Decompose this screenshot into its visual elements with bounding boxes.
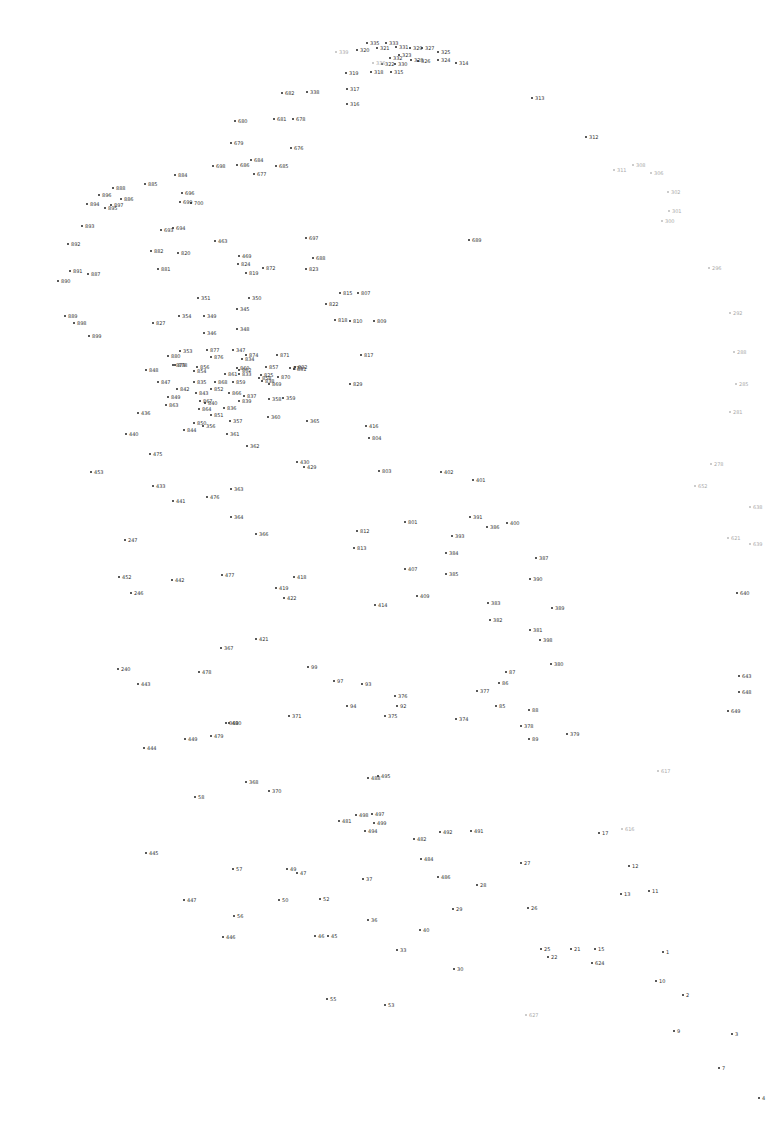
dot-number-label: 870 bbox=[281, 374, 291, 380]
dot-number-label: 827 bbox=[156, 320, 166, 326]
numbered-dot: 652 bbox=[694, 483, 708, 489]
dot-number-label: 292 bbox=[733, 310, 743, 316]
numbered-dot: 285 bbox=[735, 381, 749, 387]
dot-marker-icon bbox=[535, 557, 537, 559]
numbered-dot: 53 bbox=[384, 1002, 394, 1008]
dot-marker-icon bbox=[648, 890, 650, 892]
dot-marker-icon bbox=[69, 270, 71, 272]
dot-number-label: 356 bbox=[206, 423, 216, 429]
dot-marker-icon bbox=[528, 738, 530, 740]
dot-number-label: 306 bbox=[654, 170, 664, 176]
dot-marker-icon bbox=[152, 485, 154, 487]
numbered-dot: 484 bbox=[420, 856, 434, 862]
dot-number-label: 481 bbox=[342, 818, 352, 824]
dot-number-label: 881 bbox=[161, 266, 171, 272]
dot-marker-icon bbox=[531, 97, 533, 99]
numbered-dot: 327 bbox=[421, 45, 435, 51]
numbered-dot: 379 bbox=[566, 731, 580, 737]
numbered-dot: 680 bbox=[234, 118, 248, 124]
dot-number-label: 867 bbox=[203, 398, 213, 404]
numbered-dot: 430 bbox=[296, 459, 310, 465]
dot-number-label: 330 bbox=[398, 61, 408, 67]
numbered-dot: 698 bbox=[212, 163, 226, 169]
numbered-dot: 890 bbox=[57, 278, 71, 284]
dot-marker-icon bbox=[385, 42, 387, 44]
dot-number-label: 348 bbox=[240, 326, 250, 332]
dot-marker-icon bbox=[520, 725, 522, 727]
dot-marker-icon bbox=[177, 252, 179, 254]
dot-number-label: 391 bbox=[473, 514, 483, 520]
numbered-dot: 365 bbox=[306, 418, 320, 424]
numbered-dot: 872 bbox=[262, 265, 276, 271]
numbered-dot: 22 bbox=[547, 954, 557, 960]
numbered-dot: 308 bbox=[632, 162, 646, 168]
dot-marker-icon bbox=[735, 383, 737, 385]
dot-marker-icon bbox=[551, 607, 553, 609]
numbered-dot: 679 bbox=[230, 140, 244, 146]
dot-marker-icon bbox=[365, 425, 367, 427]
dot-marker-icon bbox=[174, 174, 176, 176]
dot-marker-icon bbox=[420, 858, 422, 860]
dot-marker-icon bbox=[437, 59, 439, 61]
dot-marker-icon bbox=[377, 775, 379, 777]
dot-marker-icon bbox=[366, 42, 368, 44]
dot-marker-icon bbox=[203, 315, 205, 317]
dot-marker-icon bbox=[238, 400, 240, 402]
numbered-dot: 480 bbox=[228, 720, 242, 726]
dot-number-label: 89 bbox=[532, 736, 538, 742]
dot-marker-icon bbox=[268, 790, 270, 792]
numbered-dot: 616 bbox=[621, 826, 635, 832]
dot-number-label: 13 bbox=[624, 891, 630, 897]
dot-number-label: 445 bbox=[149, 850, 159, 856]
dot-number-label: 9 bbox=[677, 1028, 680, 1034]
dot-number-label: 836 bbox=[227, 405, 237, 411]
dot-marker-icon bbox=[296, 872, 298, 874]
dot-marker-icon bbox=[64, 315, 66, 317]
numbered-dot: 810 bbox=[349, 318, 363, 324]
dot-marker-icon bbox=[489, 619, 491, 621]
dot-number-label: 880 bbox=[171, 353, 181, 359]
dot-marker-icon bbox=[338, 820, 340, 822]
numbered-dot: 25 bbox=[540, 946, 550, 952]
dot-marker-icon bbox=[203, 332, 205, 334]
numbered-dot: 445 bbox=[145, 850, 159, 856]
numbered-dot: 99 bbox=[307, 664, 317, 670]
dot-marker-icon bbox=[120, 198, 122, 200]
dot-number-label: 387 bbox=[539, 555, 549, 561]
numbered-dot: 888 bbox=[112, 185, 126, 191]
numbered-dot: 678 bbox=[292, 116, 306, 122]
dot-number-label: 33 bbox=[400, 947, 406, 953]
numbered-dot: 346 bbox=[203, 330, 217, 336]
numbered-dot: 866 bbox=[228, 390, 242, 396]
numbered-dot: 367 bbox=[220, 645, 234, 651]
numbered-dot: 46 bbox=[314, 933, 324, 939]
dot-number-label: 240 bbox=[121, 666, 131, 672]
numbered-dot: 33 bbox=[396, 947, 406, 953]
dot-number-label: 890 bbox=[61, 278, 71, 284]
dot-marker-icon bbox=[529, 578, 531, 580]
dot-marker-icon bbox=[145, 852, 147, 854]
dot-number-label: 414 bbox=[378, 602, 388, 608]
dot-number-label: 447 bbox=[187, 897, 197, 903]
dot-marker-icon bbox=[708, 267, 710, 269]
dot-number-label: 498 bbox=[359, 812, 369, 818]
numbered-dot: 897 bbox=[110, 202, 124, 208]
dot-marker-icon bbox=[529, 629, 531, 631]
dot-marker-icon bbox=[758, 1097, 760, 1099]
numbered-dot: 475 bbox=[149, 451, 163, 457]
dot-number-label: 882 bbox=[154, 248, 164, 254]
dot-marker-icon bbox=[236, 328, 238, 330]
dot-number-label: 383 bbox=[491, 600, 501, 606]
numbered-dot: 17 bbox=[598, 830, 608, 836]
numbered-dot: 389 bbox=[551, 605, 565, 611]
numbered-dot: 45 bbox=[327, 933, 337, 939]
dot-marker-icon bbox=[157, 268, 159, 270]
numbered-dot: 360 bbox=[267, 414, 281, 420]
dot-number-label: 93 bbox=[365, 681, 371, 687]
dot-number-label: 402 bbox=[444, 469, 454, 475]
dot-number-label: 876 bbox=[214, 354, 224, 360]
dot-number-label: 22 bbox=[551, 954, 557, 960]
dot-marker-icon bbox=[143, 747, 145, 749]
numbered-dot: 817 bbox=[360, 352, 374, 358]
dot-number-label: 621 bbox=[731, 535, 741, 541]
